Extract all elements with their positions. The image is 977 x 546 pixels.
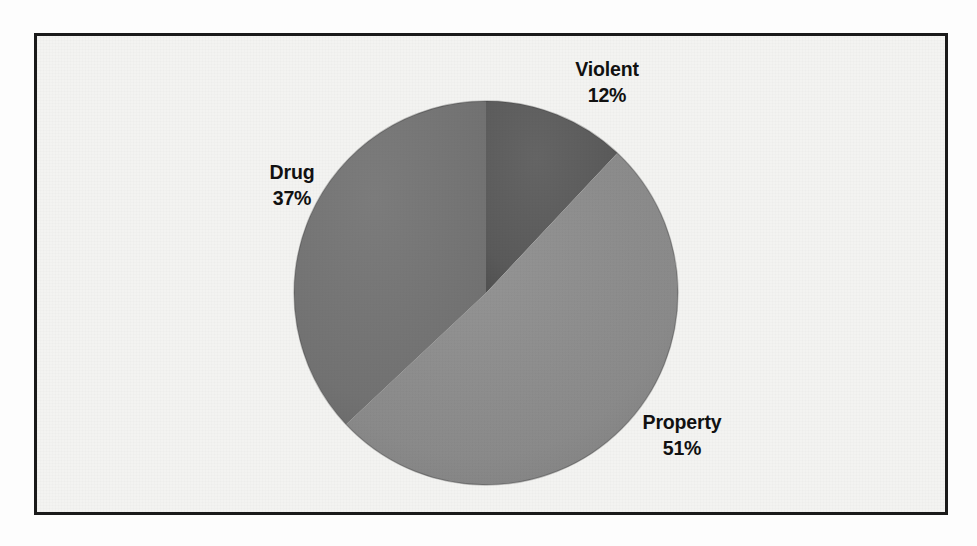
pie-label-violent-name: Violent bbox=[547, 56, 668, 82]
pie-label-drug-name: Drug bbox=[236, 159, 348, 185]
pie-label-property-value: 51% bbox=[612, 435, 752, 461]
pie-label-property: Property 51% bbox=[612, 409, 752, 460]
figure-frame: Violent 12% Drug 37% Property 51% bbox=[34, 33, 948, 515]
pie-label-drug-value: 37% bbox=[236, 185, 348, 211]
pie-label-property-name: Property bbox=[612, 409, 752, 435]
pie-label-violent-value: 12% bbox=[547, 82, 668, 108]
pie-label-violent: Violent 12% bbox=[547, 56, 668, 107]
pie-chart-svg bbox=[37, 36, 951, 518]
pie-chart: Violent 12% Drug 37% Property 51% bbox=[37, 36, 945, 512]
pie-label-drug: Drug 37% bbox=[236, 159, 348, 210]
page: Violent 12% Drug 37% Property 51% bbox=[0, 0, 977, 546]
